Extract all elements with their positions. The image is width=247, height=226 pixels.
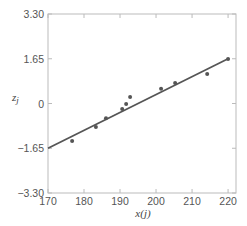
data-point <box>124 102 128 106</box>
chart: 170180190200210220 3.301.650−1.65−3.30 x… <box>0 0 247 226</box>
y-tick-label: −1.65 <box>17 142 44 154</box>
y-tick-label: −3.30 <box>17 187 44 199</box>
regression-line <box>48 59 228 149</box>
y-tick-label: 3.30 <box>24 8 45 20</box>
data-point <box>159 87 163 91</box>
y-axis-label: zj <box>11 91 19 105</box>
plot-frame <box>48 14 236 193</box>
x-tick-label: 190 <box>111 195 129 207</box>
fitted-line <box>48 59 228 149</box>
data-point <box>104 116 108 120</box>
y-axis-label-subscript: j <box>15 95 19 105</box>
data-point <box>205 72 209 76</box>
x-axis-ticks: 170180190200210220 <box>39 14 237 207</box>
data-point <box>226 57 230 61</box>
x-tick-label: 200 <box>147 195 165 207</box>
y-tick-label: 0 <box>38 98 44 110</box>
x-tick-label: 220 <box>219 195 237 207</box>
data-point <box>173 81 177 85</box>
data-point <box>120 107 124 111</box>
x-tick-label: 180 <box>75 195 93 207</box>
data-point <box>70 139 74 143</box>
x-tick-label: 210 <box>183 195 201 207</box>
data-point <box>128 95 132 99</box>
x-axis-label: x(j) <box>134 207 151 220</box>
y-tick-label: 1.65 <box>24 53 45 65</box>
plot-border <box>48 14 236 193</box>
data-point <box>94 125 98 129</box>
